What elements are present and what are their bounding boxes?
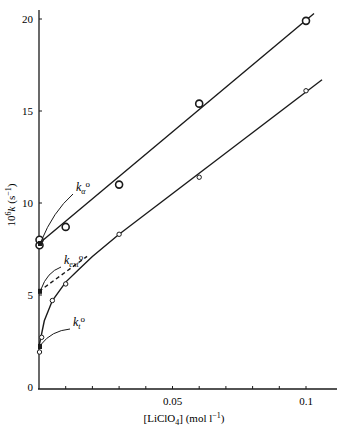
extrapolated-point-k_alpha0 bbox=[38, 241, 42, 246]
y-tick-label: 10 bbox=[22, 197, 34, 209]
data-point bbox=[39, 335, 43, 339]
data-point bbox=[196, 100, 203, 107]
annotation-label: kto bbox=[73, 314, 86, 331]
x-tick-label: 0.1 bbox=[299, 395, 313, 407]
y-tick-label: 0 bbox=[28, 381, 34, 393]
y-tick-label: 15 bbox=[22, 105, 34, 117]
fit-line-upper bbox=[39, 13, 314, 243]
data-point bbox=[304, 89, 308, 93]
data-point bbox=[50, 298, 54, 302]
annotation-arrow bbox=[41, 329, 70, 345]
data-point bbox=[63, 282, 67, 286]
axis-labels: [LiClO4] (mol l−1) 106k (s−1) bbox=[4, 183, 225, 427]
x-tick-label: 0.05 bbox=[163, 395, 183, 407]
data-point bbox=[197, 175, 201, 179]
chart: 0.050.105101520 kαokextokto [LiClO4] (mo… bbox=[0, 0, 342, 430]
extrapolated-point-k_ext0 bbox=[38, 289, 42, 294]
annotation-arrow bbox=[41, 194, 73, 241]
y-axis-label: 106k (s−1) bbox=[4, 183, 18, 226]
x-axis-label: [LiClO4] (mol l−1) bbox=[144, 411, 225, 427]
data-point bbox=[116, 181, 123, 188]
axes: 0.050.105101520 bbox=[22, 10, 337, 407]
data-point bbox=[62, 223, 69, 230]
annotations-layer: kαokextokto bbox=[41, 179, 91, 345]
y-tick-label: 20 bbox=[22, 13, 34, 25]
y-tick-label: 5 bbox=[28, 289, 34, 301]
annotation-label: kαo bbox=[76, 179, 91, 196]
data-point bbox=[37, 350, 41, 354]
data-point bbox=[303, 17, 310, 24]
fit-line-lower bbox=[119, 80, 322, 235]
annotation-label: kexto bbox=[64, 252, 84, 269]
data-point bbox=[117, 232, 121, 236]
